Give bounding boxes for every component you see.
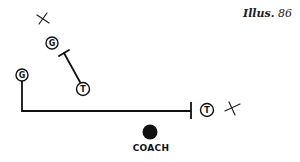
x-mark-right xyxy=(225,102,240,115)
guard-top-node: G xyxy=(46,37,58,49)
block-route-diagonal xyxy=(59,50,80,82)
guard-letter: G xyxy=(19,71,26,80)
coach-marker xyxy=(143,125,158,140)
tackle-right-node: T xyxy=(201,104,214,117)
coach-label: COACH xyxy=(126,143,176,153)
play-diagram: G T G T xyxy=(0,0,300,162)
pull-route xyxy=(22,81,191,119)
caption-number: 86 xyxy=(278,7,292,20)
tackle-mid-node: T xyxy=(77,83,90,96)
tackle-letter: T xyxy=(80,85,86,94)
x-mark-top xyxy=(37,13,49,24)
guard-left-node: G xyxy=(16,69,28,81)
guard-letter: G xyxy=(49,39,56,48)
caption-label: Illus. xyxy=(243,7,275,20)
tackle-letter: T xyxy=(204,106,210,115)
illustration-caption: Illus. 86 xyxy=(243,7,292,20)
